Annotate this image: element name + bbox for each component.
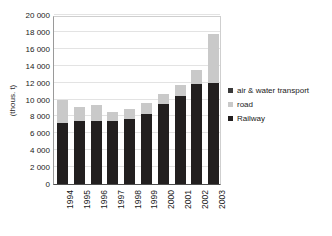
y-axis-tick: 14 000 [6,63,50,71]
y-axis-tick-labels: 20 00018 00016 00014 00012 00010 0008 00… [6,10,50,190]
x-axis-tick: 1998 [133,190,143,224]
bar-segment [107,112,118,121]
x-axis-tick: 1999 [149,190,159,224]
bar-group [158,15,169,184]
x-axis-tick-labels: 1994199519961997199819992000200120022003 [53,188,221,232]
bar-segment [57,100,68,124]
bar-group [175,15,186,184]
bar-group [74,15,85,184]
bar-group [191,15,202,184]
bar-segment [74,121,85,184]
chart-legend: air & water transportroadRailway [228,84,332,126]
bar-chart: (thous. t) 20 00018 00016 00014 00012 00… [0,0,332,236]
x-axis-tick: 2001 [183,190,193,224]
y-axis-tick: 10 000 [6,97,50,105]
legend-label: Railway [237,114,265,123]
y-axis-tick: 12 000 [6,80,50,88]
bar-segment [208,83,219,184]
bar-segment [208,34,219,83]
bar-segment [124,109,135,119]
bar-segment [124,119,135,184]
bar-group [208,15,219,184]
bar-group [91,15,102,184]
y-axis-tick: 16 000 [6,46,50,54]
legend-item: road [228,98,332,111]
y-axis-tick: 2 000 [6,164,50,172]
legend-item: Railway [228,112,332,125]
y-axis-tick: 8 000 [6,113,50,121]
y-axis-tick: 4 000 [6,147,50,155]
bar-group [107,15,118,184]
x-axis-tick: 1997 [116,190,126,224]
x-axis-tick: 1996 [99,190,109,224]
x-axis-tick: 2002 [200,190,210,224]
bar-group [124,15,135,184]
bar-segment [191,70,202,84]
legend-item: air & water transport [228,84,332,97]
bar-segment [141,103,152,114]
legend-swatch-icon [228,102,233,107]
bar-segment [91,105,102,121]
bar-group [57,15,68,184]
bar-segment [175,96,186,184]
y-axis-tick: 20 000 [6,12,50,20]
bar-segment [57,123,68,184]
x-axis-tick: 1995 [82,190,92,224]
bar-segment [91,121,102,184]
bar-segment [107,121,118,184]
bar-segment [175,85,186,96]
y-axis-tick: 0 [6,181,50,189]
bar-segment [158,104,169,184]
bar-segment [141,114,152,184]
legend-label: road [237,100,253,109]
y-axis-tick: 18 000 [6,29,50,37]
legend-swatch-icon [228,88,233,93]
x-axis-tick: 1994 [65,190,75,224]
x-axis-tick: 2003 [217,190,227,224]
plot-area [53,16,221,185]
bar-group [141,15,152,184]
bar-segment [74,107,85,121]
legend-swatch-icon [228,116,233,121]
bar-segment [191,84,202,184]
bar-segment [158,94,169,104]
legend-label: air & water transport [237,86,309,95]
y-axis-tick: 6 000 [6,130,50,138]
bar-series-container [54,17,220,184]
x-axis-tick: 2000 [166,190,176,224]
